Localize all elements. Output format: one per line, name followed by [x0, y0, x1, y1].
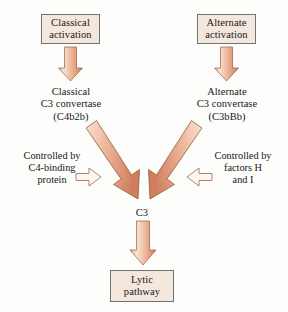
annotation-right-control: Controlled by factors H and I	[200, 150, 286, 187]
node-classical-c3-convertase: Classical C3 convertase (C4b2b)	[23, 86, 119, 123]
classical-convertase-line1: Classical	[23, 86, 119, 98]
arrow-classical-activation-to-convertase	[59, 47, 83, 81]
node-lytic-pathway-line2: pathway	[124, 286, 160, 299]
classical-convertase-line3: (C4b2b)	[23, 111, 119, 123]
node-classical-activation-line2: activation	[49, 29, 91, 42]
arrow-alternate-convertase-to-c3	[149, 121, 203, 200]
complement-pathway-diagram: Classical activation Alternate activatio…	[0, 0, 288, 312]
node-c3-label: C3	[124, 207, 160, 219]
right-control-line3: and I	[200, 174, 286, 186]
alternate-convertase-line1: Alternate	[179, 86, 275, 98]
left-control-line3: protein	[2, 174, 102, 186]
annotation-left-control: Controlled by C4-binding protein	[2, 150, 102, 187]
node-lytic-pathway-line1: Lytic	[131, 274, 153, 287]
node-classical-activation-line1: Classical	[51, 17, 90, 30]
alternate-convertase-line2: C3 convertase	[179, 98, 275, 110]
node-alternate-activation-line2: activation	[205, 29, 247, 42]
classical-convertase-line2: C3 convertase	[23, 98, 119, 110]
alternate-convertase-line3: (C3bBb)	[179, 111, 275, 123]
arrow-alternate-activation-to-convertase	[215, 47, 239, 81]
right-control-line2: factors H	[200, 162, 286, 174]
node-lytic-pathway[interactable]: Lytic pathway	[110, 270, 174, 302]
arrow-c3-to-lytic-pathway	[130, 221, 156, 265]
left-control-line1: Controlled by	[2, 150, 102, 162]
node-c3: C3	[124, 207, 160, 219]
node-classical-activation[interactable]: Classical activation	[41, 14, 100, 44]
node-alternate-activation[interactable]: Alternate activation	[197, 14, 256, 44]
node-alternate-activation-line1: Alternate	[207, 17, 247, 30]
right-control-line1: Controlled by	[200, 150, 286, 162]
left-control-line2: C4-binding	[2, 162, 102, 174]
node-alternate-c3-convertase: Alternate C3 convertase (C3bBb)	[179, 86, 275, 123]
